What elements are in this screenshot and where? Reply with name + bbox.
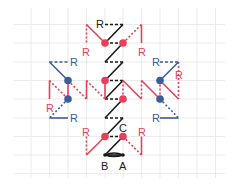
- blue-point: [64, 95, 72, 103]
- label-r: R: [138, 46, 146, 58]
- label-r: R: [138, 126, 146, 138]
- label-r: R: [96, 18, 104, 30]
- red-point: [119, 95, 127, 103]
- black-point: [121, 153, 125, 157]
- blue-point: [156, 95, 164, 103]
- label-r: R: [175, 69, 183, 81]
- label-r: R: [46, 102, 54, 114]
- label-r: R: [82, 46, 90, 58]
- black-point: [103, 153, 107, 157]
- label-r: R: [152, 56, 160, 68]
- label-r: R: [70, 112, 78, 124]
- label-r: R: [82, 126, 90, 138]
- red-point: [101, 39, 109, 47]
- label-c: C: [119, 122, 127, 134]
- red-point: [101, 77, 109, 85]
- red-point: [119, 39, 127, 47]
- blue-point: [156, 77, 164, 85]
- red-point: [101, 133, 109, 141]
- blue-point: [64, 77, 72, 85]
- label-r: R: [152, 112, 160, 124]
- label-a: A: [119, 160, 127, 172]
- label-r: R: [70, 56, 78, 68]
- background: [0, 0, 236, 185]
- label-b: B: [101, 160, 108, 172]
- fold-diagram: RRRRRRRRRRRCBA: [0, 0, 236, 185]
